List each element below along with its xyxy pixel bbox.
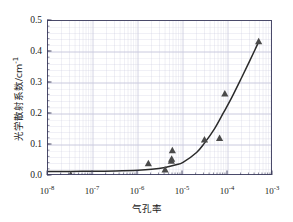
y-tick-label: 0.3 [0,77,42,87]
x-tick-base: 10 [130,186,139,196]
data-point-marker [216,134,223,140]
x-tick-exponent: -5 [184,184,190,191]
y-axis-label: 光学散射系数/cm-1 [9,19,23,179]
x-tick-exponent: -8 [49,184,55,191]
x-axis-label: 气孔率 [0,201,293,215]
y-axis-label-superscript: -1 [12,57,20,64]
x-tick-exponent: -4 [229,184,235,191]
data-point-marker [221,90,228,96]
x-tick-base: 10 [175,186,184,196]
y-tick-label: 0.5 [0,15,42,25]
x-tick-label: 10-4 [207,182,247,197]
x-tick-base: 10 [85,186,94,196]
scatter-chart-figure: 光学散射系数/cm-1 0.00.10.20.30.40.5 10-810-71… [0,0,293,222]
x-tick-base: 10 [265,186,274,196]
x-tick-label: 10-5 [162,182,202,197]
y-tick-label: 0.2 [0,108,42,118]
x-tick-base: 10 [220,186,229,196]
x-tick-label: 10-6 [117,182,157,197]
x-tick-label: 10-8 [27,182,67,197]
x-tick-label: 10-3 [252,182,292,197]
data-point-marker [168,155,175,161]
y-tick-label: 0.4 [0,46,42,56]
x-tick-exponent: -6 [139,184,145,191]
plot-area [47,20,272,175]
y-tick-label: 0.0 [0,170,42,180]
data-point-marker [145,160,152,166]
x-tick-exponent: -7 [94,184,100,191]
data-point-marker [255,38,262,44]
x-tick-exponent: -3 [274,184,280,191]
y-tick-label: 0.1 [0,139,42,149]
x-tick-label: 10-7 [72,182,112,197]
x-tick-base: 10 [40,186,49,196]
y-axis-label-text: 光学散射系数/cm [13,64,24,142]
data-point-marker [169,147,176,153]
data-layer [48,21,272,175]
